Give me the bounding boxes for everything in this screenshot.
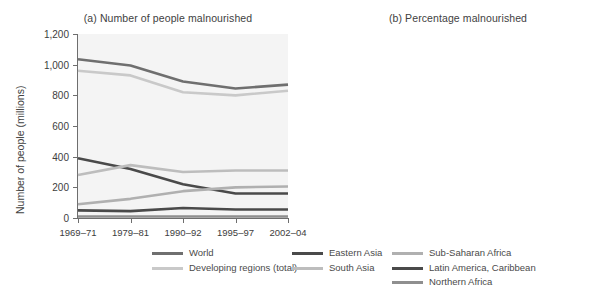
legend-column-2: Eastern AsiaSouth Asia: [292, 247, 382, 276]
legend-color-swatch: [392, 267, 423, 270]
chart-panel-a: (a) Number of people malnourished Number…: [0, 0, 310, 250]
y-axis-tick-label: 400: [52, 151, 69, 162]
series-line: [78, 208, 288, 211]
legend-item-label: Eastern Asia: [329, 247, 382, 259]
x-axis-tick: [183, 218, 184, 223]
legend-item[interactable]: Developing regions (total): [152, 262, 297, 274]
y-axis-tick: [73, 95, 78, 96]
y-axis-tick: [73, 187, 78, 188]
legend-color-swatch: [152, 252, 183, 255]
x-axis-tick-label: 1990–92: [165, 227, 202, 238]
legend-color-swatch: [152, 267, 183, 270]
legend-color-swatch: [292, 252, 323, 255]
legend-color-swatch: [392, 281, 423, 284]
series-line: [78, 165, 288, 175]
legend-item[interactable]: Sub-Saharan Africa: [392, 247, 536, 259]
panel-a-plot-area: 02004006008001,0001,2001969–711979–81199…: [78, 34, 288, 218]
x-axis-tick-label: 2002–04: [270, 227, 307, 238]
x-axis-tick-label: 1995–97: [217, 227, 254, 238]
x-axis-tick-label: 1969–71: [60, 227, 97, 238]
x-axis-tick: [131, 218, 132, 223]
legend-item-label: Latin America, Caribbean: [429, 262, 536, 274]
legend-item-label: Sub-Saharan Africa: [429, 247, 511, 259]
legend-item-label: Developing regions (total): [189, 262, 297, 274]
y-axis-tick-label: 0: [63, 213, 69, 224]
legend-item-label: World: [189, 247, 214, 259]
legend-column-3: Sub-Saharan AfricaLatin America, Caribbe…: [392, 247, 536, 291]
legend-item[interactable]: Latin America, Caribbean: [392, 262, 536, 274]
y-axis-tick-label: 600: [52, 121, 69, 132]
legend-item-label: Northern Africa: [429, 276, 492, 288]
legend-item[interactable]: World: [152, 247, 297, 259]
y-axis-tick-label: 1,200: [44, 29, 69, 40]
panel-b-title: (b) Percentage malnourished: [303, 12, 603, 24]
x-axis-tick-label: 1979–81: [112, 227, 149, 238]
chart-legend: WorldDeveloping regions (total) Eastern …: [0, 247, 603, 306]
panel-a-y-axis-label: Number of people (millions): [14, 86, 26, 214]
y-axis-tick: [73, 126, 78, 127]
y-axis-tick-label: 1,000: [44, 59, 69, 70]
y-axis-tick-label: 200: [52, 182, 69, 193]
panel-a-series-lines: [78, 34, 288, 218]
legend-item[interactable]: Eastern Asia: [292, 247, 382, 259]
y-axis-tick: [73, 34, 78, 35]
y-axis-tick: [73, 65, 78, 66]
legend-column-1: WorldDeveloping regions (total): [152, 247, 297, 276]
y-axis-tick: [73, 157, 78, 158]
chart-panel-b: (b) Percentage malnourished Percentage 0…: [303, 0, 603, 250]
x-axis-tick: [288, 218, 289, 223]
legend-item[interactable]: South Asia: [292, 262, 382, 274]
y-axis-tick-label: 800: [52, 90, 69, 101]
x-axis-tick: [78, 218, 79, 223]
legend-item[interactable]: Northern Africa: [392, 276, 536, 288]
x-axis-tick: [236, 218, 237, 223]
legend-color-swatch: [392, 252, 423, 255]
legend-color-swatch: [292, 267, 323, 270]
series-line: [78, 71, 288, 96]
series-line: [78, 187, 288, 205]
panel-a-title: (a) Number of people malnourished: [0, 12, 310, 24]
legend-item-label: South Asia: [329, 262, 374, 274]
